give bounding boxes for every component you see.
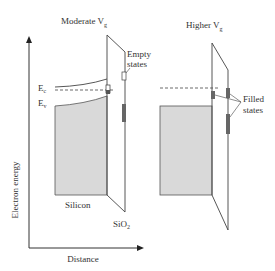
ec-label: Ec	[38, 83, 47, 94]
left-panel: Moderate Vg Empty states Ec Ev Silicon S…	[38, 16, 151, 230]
oxide-state-filled	[122, 104, 126, 122]
filled-leader-3	[230, 102, 241, 117]
oxide-state-filled-lower	[226, 114, 230, 134]
band-diagram: Electron energy Distance Moderate Vg Emp…	[0, 0, 275, 271]
oxide-state-empty	[122, 72, 126, 80]
y-axis-arrow-icon	[26, 36, 32, 43]
empty-states-label-line2: states	[127, 59, 147, 69]
x-axis-label: Distance	[67, 254, 99, 264]
filled-states-label-line1: Filled	[243, 94, 265, 104]
right-panel: Higher Vg Filled states	[160, 20, 265, 230]
oxide-layer	[107, 35, 125, 212]
ev-label: Ev	[38, 98, 47, 109]
left-title: Moderate Vg	[61, 16, 107, 28]
filled-states-label-line2: states	[243, 105, 263, 115]
conduction-band-edge	[55, 79, 107, 87]
oxide-label: SiO2	[113, 219, 130, 230]
silicon-valence-band-right	[160, 106, 212, 195]
right-title: Higher Vg	[186, 20, 223, 32]
interface-state-filled	[106, 90, 110, 94]
x-axis-arrow-icon	[137, 245, 144, 251]
empty-states-label-line1: Empty	[127, 49, 151, 59]
silicon-label: Silicon	[65, 200, 91, 210]
oxide-state-filled-upper	[226, 88, 230, 98]
interface-state-filled-right	[211, 91, 215, 99]
y-axis-label: Electron energy	[10, 161, 20, 219]
oxide-layer-right	[212, 43, 228, 230]
silicon-valence-band	[55, 96, 107, 195]
